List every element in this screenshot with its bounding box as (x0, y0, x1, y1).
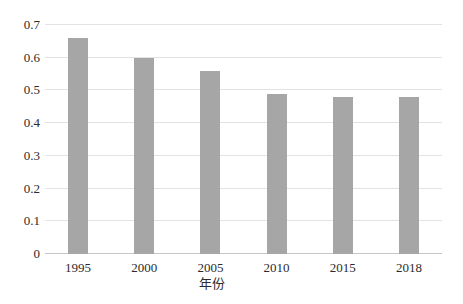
x-axis-line (45, 253, 442, 254)
x-tick-label: 2000 (112, 261, 176, 275)
gridline (45, 57, 442, 58)
x-tick-label: 1995 (46, 261, 110, 275)
y-tick-label: 0.6 (0, 51, 40, 65)
gridline (45, 220, 442, 221)
gridline (45, 89, 442, 90)
y-tick-label: 0.3 (0, 149, 40, 163)
gridline (45, 24, 442, 25)
bar-2000 (134, 58, 154, 254)
gridline (45, 155, 442, 156)
y-tick-label: 0.4 (0, 116, 40, 130)
y-tick-label: 0.1 (0, 214, 40, 228)
gridline (45, 122, 442, 123)
bar-2010 (267, 94, 287, 254)
bar-1995 (68, 38, 88, 254)
x-axis-title: 年份 (172, 276, 252, 291)
plot-area (45, 25, 442, 254)
y-tick-label: 0.7 (0, 18, 40, 32)
x-tick-label: 2018 (377, 261, 441, 275)
y-tick-label: 0 (0, 247, 40, 261)
x-tick-label: 2015 (311, 261, 375, 275)
y-tick-label: 0.5 (0, 83, 40, 97)
bar-2018 (399, 97, 419, 254)
gridline (45, 188, 442, 189)
x-tick-label: 2010 (245, 261, 309, 275)
x-tick-label: 2005 (178, 261, 242, 275)
y-tick-label: 0.2 (0, 182, 40, 196)
bar-2015 (333, 97, 353, 254)
bar-2005 (200, 71, 220, 254)
bar-chart: 00.10.20.30.40.50.60.7 19952000200520102… (0, 0, 463, 304)
